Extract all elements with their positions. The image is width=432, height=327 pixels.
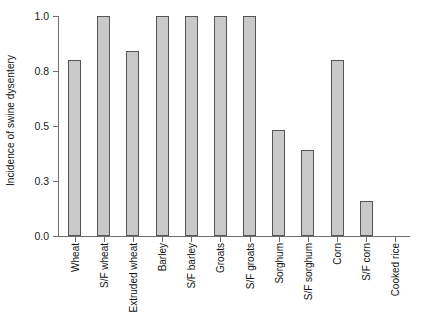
x-tick-label-text: Cooked rice bbox=[390, 243, 401, 296]
x-tick-mark bbox=[395, 237, 396, 242]
x-tick-mark bbox=[337, 237, 338, 242]
plot-area: 0.00.30.50.81.0 bbox=[60, 16, 410, 236]
x-tick-mark bbox=[220, 237, 221, 242]
x-axis-labels: WheatS/F wheatExtruded wheatBarleyS/F ba… bbox=[60, 243, 410, 327]
y-tick-label: 0.8 bbox=[34, 65, 49, 77]
bar bbox=[126, 51, 139, 236]
y-axis-line bbox=[58, 16, 59, 237]
y-tick-label: 0.0 bbox=[34, 230, 49, 242]
bar bbox=[243, 16, 256, 236]
x-tick-mark bbox=[279, 237, 280, 242]
x-tick-mark bbox=[366, 237, 367, 242]
x-tick-label-text: S/F wheat bbox=[99, 243, 110, 288]
x-tick-mark bbox=[191, 237, 192, 242]
y-tick-label: 1.0 bbox=[34, 10, 49, 22]
y-tick-mark bbox=[53, 71, 58, 72]
x-tick-mark bbox=[308, 237, 309, 242]
x-tick-label-text: Wheat bbox=[70, 243, 81, 272]
y-tick-mark bbox=[53, 181, 58, 182]
y-axis-title-text: Incidence of swine dysentery bbox=[6, 54, 17, 185]
x-axis-line bbox=[58, 236, 410, 237]
chart-figure: Incidence of swine dysentery 0.00.30.50.… bbox=[0, 0, 432, 327]
x-tick-label-text: Groats bbox=[215, 243, 226, 273]
x-tick-label-text: S/F corn bbox=[361, 243, 372, 281]
bar bbox=[360, 201, 373, 236]
x-tick-label-text: Sorghum bbox=[274, 243, 285, 284]
x-tick-mark bbox=[104, 237, 105, 242]
bar bbox=[331, 60, 344, 236]
x-tick-mark bbox=[162, 237, 163, 242]
y-tick-mark bbox=[53, 236, 58, 237]
y-tick-label: 0.3 bbox=[34, 175, 49, 187]
bar bbox=[97, 16, 110, 236]
x-tick-mark bbox=[250, 237, 251, 242]
bar bbox=[214, 16, 227, 236]
x-tick-label-text: S/F sorghum bbox=[303, 243, 314, 300]
y-tick-mark bbox=[53, 126, 58, 127]
y-axis-title: Incidence of swine dysentery bbox=[0, 0, 22, 240]
x-tick-label-text: S/F groats bbox=[245, 243, 256, 289]
bar bbox=[301, 150, 314, 236]
x-tick-mark bbox=[133, 237, 134, 242]
y-tick-mark bbox=[53, 16, 58, 17]
bar bbox=[272, 130, 285, 236]
y-tick-label: 0.5 bbox=[34, 120, 49, 132]
bar bbox=[185, 16, 198, 236]
x-tick-mark bbox=[75, 237, 76, 242]
bar bbox=[156, 16, 169, 236]
bar bbox=[68, 60, 81, 236]
x-tick-label-text: Barley bbox=[157, 243, 168, 271]
x-tick-label-text: Corn bbox=[332, 243, 343, 265]
x-tick-label-text: Extruded wheat bbox=[128, 243, 139, 313]
x-tick-label-text: S/F barley bbox=[186, 243, 197, 289]
